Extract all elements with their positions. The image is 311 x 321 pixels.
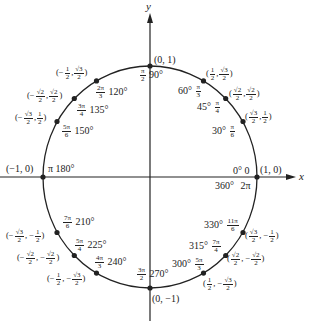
rad-60: π3: [196, 84, 202, 99]
point-0: [254, 174, 259, 179]
coord-135: (−√22,√22): [27, 89, 62, 104]
angle-label-60: 60° π3: [178, 84, 202, 99]
coord-240: (−12, −√32): [47, 272, 85, 287]
point-150: [54, 119, 59, 124]
angle-label-300: 300° 5π3: [172, 257, 205, 272]
deg-30: 30°: [212, 125, 226, 136]
deg-270: 270°: [150, 268, 169, 279]
coord-330: (√32, −12): [245, 229, 279, 244]
angle-label-270: 3π2 270°: [136, 267, 169, 282]
y-axis-label: y: [146, 0, 151, 12]
deg-90: 90°: [149, 69, 163, 80]
point-240: [94, 271, 99, 276]
rad-210: 7π6: [63, 215, 72, 230]
coord-120: (−12,√32): [56, 66, 87, 81]
deg-120: 120°: [109, 86, 128, 97]
deg-0: 0°: [233, 165, 242, 176]
coord-315: (√22, −√22): [227, 252, 264, 267]
angle-label-240: 4π3 240°: [94, 255, 127, 270]
angle-label-0: 0° 0: [233, 166, 250, 176]
coord-150: (−√32,12): [15, 111, 46, 126]
angle-label-225: 5π4 225°: [74, 238, 107, 253]
deg-150: 150°: [75, 125, 94, 136]
x-axis-label: x: [299, 170, 304, 182]
deg-45: 45°: [197, 101, 211, 112]
deg-330: 330°: [204, 219, 223, 230]
coord-210: (−√32, −12): [6, 229, 44, 244]
coord-300: (12, −√32): [203, 277, 237, 292]
point-225: [72, 253, 77, 258]
coord-60: (12,√32): [206, 67, 233, 82]
rad-360: 2π: [241, 180, 251, 191]
coord-30: (√32,12): [245, 110, 272, 125]
point-120: [94, 78, 99, 83]
rad-225: 5π4: [75, 238, 84, 253]
angle-label-150: 5π6 150°: [61, 124, 94, 139]
rad-120: 2π3: [96, 85, 105, 100]
coord-90: (0, 1): [154, 55, 176, 65]
deg-210: 210°: [76, 216, 95, 227]
angle-label-210: 7π6 210°: [62, 215, 95, 230]
deg-60: 60°: [178, 85, 192, 96]
rad-180: π: [48, 163, 53, 174]
rad-270: 3π2: [137, 267, 146, 282]
rad-240: 4π3: [95, 255, 104, 270]
rad-135: 3π4: [77, 103, 86, 118]
coord-45: (√22,√22): [229, 87, 260, 102]
rad-45: π4: [215, 100, 221, 115]
coord-180: (−1, 0): [6, 164, 33, 174]
deg-360: 360°: [215, 180, 234, 191]
coord-225: (−√22, −√22): [17, 251, 59, 266]
angle-label-360: 360° 2π: [215, 181, 251, 191]
angle-label-315: 315° 7π4: [189, 239, 222, 254]
angle-label-45: 45° π4: [197, 100, 221, 115]
deg-225: 225°: [88, 239, 107, 250]
point-270: [147, 285, 152, 290]
point-180: [40, 174, 45, 179]
angle-label-30: 30° π6: [212, 124, 236, 139]
point-210: [54, 230, 59, 235]
point-45: [223, 96, 228, 101]
rad-30: π6: [230, 124, 236, 139]
x-axis-arrow-icon: [286, 174, 296, 180]
rad-150: 5π6: [62, 124, 71, 139]
deg-240: 240°: [108, 256, 127, 267]
point-135: [72, 96, 77, 101]
angle-label-90: π2 90°: [139, 68, 163, 83]
coord-270: (0, −1): [152, 294, 179, 304]
deg-135: 135°: [90, 104, 109, 115]
rad-0: 0: [245, 165, 250, 176]
angle-label-135: 3π4 135°: [76, 103, 109, 118]
angle-label-330: 330° 11π6: [204, 218, 240, 233]
y-axis-arrow-icon: [147, 13, 153, 23]
angle-label-120: 2π3 120°: [95, 85, 128, 100]
rad-90: π2: [140, 68, 146, 83]
rad-315: 7π4: [212, 239, 221, 254]
rad-300: 5π3: [195, 257, 204, 272]
angle-label-180: π 180°: [48, 164, 75, 174]
deg-300: 300°: [172, 258, 191, 269]
coord-0: (1, 0): [260, 165, 282, 175]
rad-330: 11π6: [227, 218, 239, 233]
deg-315: 315°: [189, 240, 208, 251]
deg-180: 180°: [56, 163, 75, 174]
